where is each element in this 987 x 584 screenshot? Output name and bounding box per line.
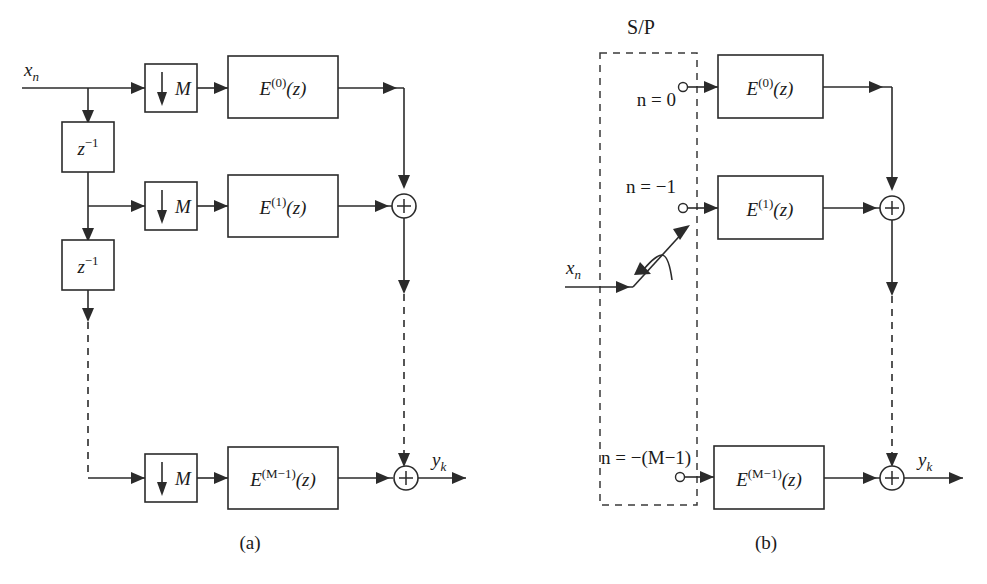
- adder-b-2: [880, 466, 904, 490]
- decimator-a-2: M: [145, 182, 197, 230]
- arrowhead-row2-a: [131, 200, 145, 212]
- contact-circle-b-3: [676, 473, 685, 482]
- input-wire-b: [565, 281, 633, 293]
- filter-block-a-1: E(0)(z): [228, 56, 338, 118]
- output-label-b: yk: [916, 449, 932, 474]
- serial-to-parallel-boundary: [600, 53, 697, 505]
- wire-filter-a-1-to-bus: [338, 82, 410, 189]
- arrowhead-delay-a-2-out: [82, 308, 94, 322]
- rotary-switch-icon: [633, 225, 690, 287]
- arrowhead-contact-b-1: [704, 81, 718, 93]
- adder-b-1: [880, 196, 904, 220]
- tap-label-b-1: n = 0: [637, 89, 676, 110]
- wire-decimator-to-filter-a-1: [197, 82, 228, 94]
- delay-a-2-output: [82, 290, 94, 478]
- tap-contact-b-1: n = 0: [637, 81, 718, 110]
- switch-arm: [633, 229, 686, 287]
- tap-branch-a-2: [82, 206, 94, 242]
- filter-block-b-2: E(1)(z): [718, 176, 823, 239]
- arrowhead-bus-a-1: [398, 175, 410, 189]
- panel-b: S/P xn n = 0 E(0)(z): [565, 16, 963, 554]
- wire-filter-b-2-to-adder: [823, 202, 880, 214]
- arrowhead-out-a-2: [375, 200, 389, 212]
- input-wire-a: [22, 82, 145, 94]
- tap-contact-b-2: n = −1: [626, 176, 718, 214]
- arrowhead-switch-arm: [673, 225, 690, 240]
- delay-block-a-2: z−1: [62, 240, 114, 290]
- arrowhead-out-a-1: [383, 82, 397, 94]
- arrowhead-output-a: [452, 472, 466, 484]
- arrowhead-input-b: [616, 281, 630, 293]
- arrowhead-contact-b-3: [700, 471, 714, 483]
- delay-block-a-1: z−1: [62, 122, 114, 172]
- arrowhead-out-b-3: [863, 472, 877, 484]
- panel-a: z−1 z−1: [22, 56, 466, 554]
- decimator-label-a-3: M: [174, 468, 192, 489]
- arrowhead-link-a-2: [214, 200, 228, 212]
- filter-block-a-3: E(M−1)(z): [228, 447, 338, 509]
- row2-input-wire-a: [88, 200, 145, 212]
- arrowhead-bus-b-mid: [886, 282, 898, 296]
- filter-block-a-2: E(1)(z): [228, 175, 338, 237]
- arrowhead-out-b-1: [869, 81, 883, 93]
- contact-circle-b-1: [679, 83, 688, 92]
- arrowhead-bus-b-1: [886, 177, 898, 191]
- arrowhead-output-b: [949, 472, 963, 484]
- wire-filter-b-1-to-bus: [823, 81, 898, 191]
- tap-branch-a-1: [82, 88, 94, 124]
- decimator-a-3: M: [145, 454, 197, 502]
- input-label-a: xn: [23, 59, 39, 84]
- arrowhead-input-a: [131, 82, 145, 94]
- arrowhead-link-a-1: [214, 82, 228, 94]
- arrowhead-out-b-2: [863, 202, 877, 214]
- decimator-a-1: M: [145, 64, 197, 112]
- adder-a-1: [392, 194, 416, 218]
- wire-filter-b-3-to-adder: [824, 472, 880, 484]
- row3-input-wire-a: [88, 472, 145, 484]
- wire-filter-a-3-to-adder: [338, 472, 393, 484]
- bus-dashed-b: [886, 220, 898, 467]
- caption-b: (b): [755, 532, 777, 554]
- decimator-label-a-2: M: [174, 196, 192, 217]
- arrowhead-link-a-3: [214, 472, 228, 484]
- arrowhead-contact-b-2: [704, 202, 718, 214]
- filter-block-b-3: E(M−1)(z): [714, 446, 824, 509]
- contact-circle-b-2: [679, 204, 688, 213]
- decimator-label-a-1: M: [174, 78, 192, 99]
- arrowhead-bus-a-mid: [398, 280, 410, 294]
- wire-decimator-to-filter-a-2: [197, 200, 228, 212]
- caption-a: (a): [239, 532, 260, 554]
- polyphase-decomposition-figure: z−1 z−1: [0, 0, 987, 584]
- tap-label-b-2: n = −1: [626, 176, 676, 197]
- output-wire-b: [904, 472, 963, 484]
- serial-to-parallel-label: S/P: [627, 16, 655, 38]
- arrowhead-bus-b-bottom: [886, 453, 898, 467]
- adder-a-2: [394, 466, 418, 490]
- arrowhead-bus-a-bottom: [398, 453, 410, 467]
- input-label-b: xn: [565, 257, 581, 282]
- filter-block-b-1: E(0)(z): [718, 55, 823, 118]
- wire-filter-a-2-to-adder: [338, 200, 392, 212]
- bus-dashed-a: [398, 218, 410, 467]
- output-label-a: yk: [430, 449, 446, 474]
- arrowhead-out-a-3: [376, 472, 390, 484]
- tap-label-b-3: n = −(M−1): [601, 447, 691, 469]
- arrowhead-row3-a: [131, 472, 145, 484]
- wire-decimator-to-filter-a-3: [197, 472, 228, 484]
